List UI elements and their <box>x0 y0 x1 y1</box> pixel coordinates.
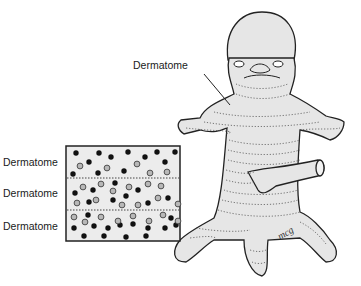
box-dermatome-label-2: Dermatome <box>3 187 58 199</box>
box-dermatome-label-1: Dermatome <box>3 156 58 168</box>
box-dermatome-label-3: Dermatome <box>3 220 58 232</box>
embryo-head <box>227 12 295 60</box>
eye-left <box>234 61 244 67</box>
embryo-dermatome-label: Dermatome <box>133 59 188 71</box>
eye-right <box>273 61 283 67</box>
embryo-diagram: mcg <box>0 0 361 286</box>
pointer-line <box>204 74 230 105</box>
embryo-figure <box>175 12 344 276</box>
dermatome-box <box>66 146 181 241</box>
